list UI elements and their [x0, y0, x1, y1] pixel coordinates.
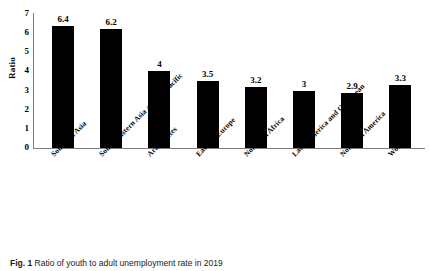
bar-group[interactable]: 6.4 [52, 14, 74, 148]
bar-group[interactable]: 3.2 [245, 14, 267, 148]
y-axis-tick-1: 1 [15, 124, 29, 133]
bar-value-label: 3.5 [185, 69, 231, 79]
y-axis-tick-3: 3 [15, 86, 29, 95]
figure-caption-label: Fig. 1 [10, 258, 32, 268]
figure-caption-text: Ratio of youth to adult unemployment rat… [32, 258, 222, 268]
bar-value-label: 3.2 [233, 75, 279, 85]
bar-value-label: 6.2 [88, 17, 134, 27]
y-axis-tick-5: 5 [15, 47, 29, 56]
y-axis-tick-0: 0 [15, 143, 29, 152]
bar-value-label: 3 [281, 79, 327, 89]
bar-group[interactable]: 3.3 [389, 14, 411, 148]
y-axis-tick-2: 2 [15, 105, 29, 114]
bar-value-label: 3.3 [377, 73, 423, 83]
bar-value-label: 4 [136, 59, 182, 69]
y-axis-tick-6: 6 [15, 28, 29, 37]
bar-group[interactable]: 3.5 [197, 14, 219, 148]
figure-caption: Fig. 1 Ratio of youth to adult unemploym… [10, 258, 426, 269]
x-axis-line [33, 148, 425, 149]
y-axis-tick-7: 7 [15, 9, 29, 18]
bar-group[interactable]: 6.2 [100, 14, 122, 148]
bar-value-label: 6.4 [40, 14, 86, 24]
bar-group[interactable]: 3 [293, 14, 315, 148]
figure-container: Ratio 76543210 6.46.243.53.232.93.3 Sout… [0, 0, 430, 271]
y-axis-tick-4: 4 [15, 66, 29, 75]
